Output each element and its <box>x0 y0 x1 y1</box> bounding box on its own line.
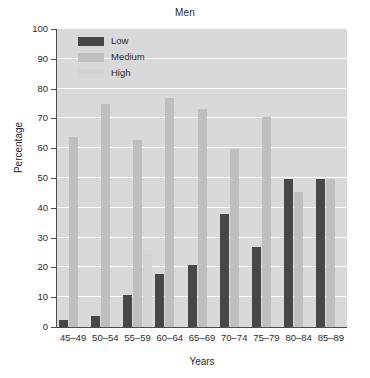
bar <box>101 104 110 327</box>
y-tick-label: 40 <box>10 202 48 213</box>
legend-swatch-icon <box>78 53 104 62</box>
x-tick-label: 85–89 <box>311 332 351 343</box>
gridline <box>57 88 347 89</box>
bar <box>69 137 78 327</box>
bar <box>326 179 335 327</box>
y-tick-label: 80 <box>10 83 48 94</box>
y-tick <box>51 178 57 179</box>
bar <box>294 192 303 327</box>
y-tick-label: 30 <box>10 232 48 243</box>
y-tick-label: 50 <box>10 172 48 183</box>
legend-item[interactable]: Low <box>78 33 145 49</box>
bar <box>91 316 100 327</box>
bar <box>220 214 229 327</box>
bar <box>284 179 293 327</box>
y-tick-label: 100 <box>10 23 48 34</box>
bar <box>59 320 68 327</box>
gridline <box>57 28 347 29</box>
y-tick-label: 10 <box>10 291 48 302</box>
y-tick-label: 60 <box>10 142 48 153</box>
bar <box>230 149 239 327</box>
chart-title: Men <box>0 7 370 18</box>
y-tick <box>51 208 57 209</box>
bar <box>143 250 152 327</box>
y-tick <box>51 118 57 119</box>
legend-label: Low <box>111 36 128 46</box>
chart-legend: LowMediumHigh <box>78 33 145 81</box>
y-tick <box>51 327 57 328</box>
y-tick <box>51 267 57 268</box>
y-tick <box>51 297 57 298</box>
x-axis-label: Years <box>57 356 347 367</box>
bar <box>133 140 142 327</box>
y-tick-label: 20 <box>10 261 48 272</box>
y-tick-label: 0 <box>10 321 48 332</box>
bar <box>188 265 197 327</box>
legend-item[interactable]: Medium <box>78 49 145 65</box>
legend-label: High <box>111 68 131 78</box>
bar <box>155 274 164 327</box>
legend-label: Medium <box>111 52 145 62</box>
y-tick <box>51 148 57 149</box>
legend-swatch-icon <box>78 69 104 78</box>
bar <box>165 98 174 327</box>
bar <box>198 109 207 327</box>
bar <box>123 295 132 327</box>
y-tick-label: 90 <box>10 53 48 64</box>
legend-swatch-icon <box>78 37 104 46</box>
bar <box>252 247 261 327</box>
x-axis-line <box>56 327 347 328</box>
bar <box>316 179 325 327</box>
bar-chart: Men Percentage 0102030405060708090100 45… <box>0 0 370 378</box>
y-tick <box>51 59 57 60</box>
bar <box>262 117 271 327</box>
y-tick <box>51 29 57 30</box>
y-tick <box>51 238 57 239</box>
legend-item[interactable]: High <box>78 65 145 81</box>
y-tick-label: 70 <box>10 112 48 123</box>
y-tick <box>51 89 57 90</box>
